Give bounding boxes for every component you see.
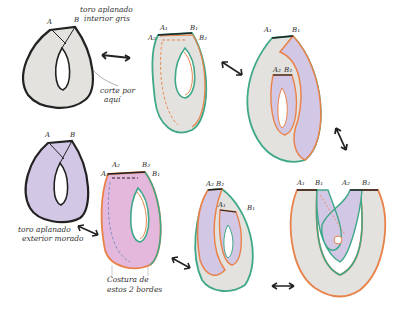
label-a1: A₁ [159, 24, 168, 32]
note-line-1: Costura de [107, 275, 149, 284]
label-a1: A₁ [263, 26, 272, 34]
label-b1: B₁ [246, 204, 255, 212]
arrow-2 [222, 62, 242, 75]
arrow-3 [335, 128, 347, 150]
note-line-2: estos 2 bordes [107, 285, 162, 294]
label-b1: B₁ [291, 26, 300, 34]
figure-final-u: A₁ B₁ A₂ B₂ [291, 179, 385, 297]
label-b1: B₁ [151, 170, 160, 178]
arrow-6 [272, 283, 294, 289]
cut-note-line-2: aquí [104, 95, 122, 104]
figure-twisted-band: A₁ B₁ A₂ B₂ [247, 26, 320, 162]
note-line-1: toro aplanado [80, 5, 133, 14]
figure-twisted-band-2: A₂ B₂ A₁ B₁ [195, 180, 255, 291]
note-line-2: interior gris [84, 14, 130, 23]
label-b: B [69, 131, 75, 139]
label-b2: B₂ [283, 66, 292, 74]
figure-pink-cut: A₂ B₂ A₁ B₁ Costura de estos 2 bordes [100, 161, 162, 294]
label-b: B [73, 16, 79, 24]
label-b2: B₂ [141, 161, 150, 169]
label-a1: A₁ [100, 170, 109, 178]
note-line-1: toro aplanado [18, 225, 71, 234]
arrow-5 [172, 257, 190, 269]
topology-diagram: A B toro aplanado interior gris corte po… [0, 0, 396, 323]
label-a: A [46, 18, 52, 26]
label-a1: A₁ [296, 179, 305, 187]
label-b1: B₁ [314, 179, 323, 187]
cut-note-line-1: corte por [100, 86, 135, 95]
label-a2: A₂ [111, 161, 120, 169]
label-b2: B₂ [215, 180, 224, 188]
note-line-2: exterior morado [22, 234, 84, 243]
label-a2: A₂ [272, 66, 281, 74]
label-a2: A₂ [341, 179, 350, 187]
label-a: A [44, 131, 50, 139]
label-a2: A₂ [205, 180, 214, 188]
arrow-1 [102, 52, 130, 61]
label-a2: A₂ [147, 34, 156, 42]
label-b1: B₁ [189, 24, 198, 32]
label-b2: B₂ [361, 179, 370, 187]
label-a1: A₁ [217, 201, 226, 209]
label-b2: B₂ [198, 34, 207, 42]
figure-cut-torus: A₁ B₁ A₂ B₂ [147, 24, 207, 132]
